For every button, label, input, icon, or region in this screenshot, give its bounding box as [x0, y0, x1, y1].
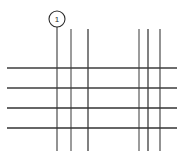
- callout-1: 1: [49, 11, 65, 27]
- grid-drawing-svg: 1: [0, 0, 185, 158]
- technical-drawing-canvas: 1: [0, 0, 185, 158]
- canvas-background: [0, 0, 185, 158]
- callout-label: 1: [55, 15, 60, 24]
